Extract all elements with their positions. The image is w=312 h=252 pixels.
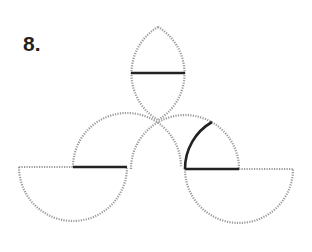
right-semicircle-arc (185, 169, 293, 223)
left-semicircle-arc (19, 167, 127, 221)
arc-construction-diagram: .dot { fill: none; stroke: #9a9a9a; stro… (0, 0, 312, 252)
figure-canvas: 8. .dot { fill: none; stroke: #9a9a9a; s… (0, 0, 312, 252)
solid-curved-arc (185, 122, 212, 169)
left-upper-arc (73, 113, 181, 167)
